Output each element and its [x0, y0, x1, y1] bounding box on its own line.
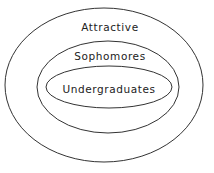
set-inner-label: Undergraduates	[62, 83, 155, 95]
set-middle-label: Sophomores	[74, 50, 146, 62]
set-outer-label: Attractive	[81, 21, 138, 33]
euler-diagram: Attractive Sophomores Undergraduates	[0, 0, 214, 173]
